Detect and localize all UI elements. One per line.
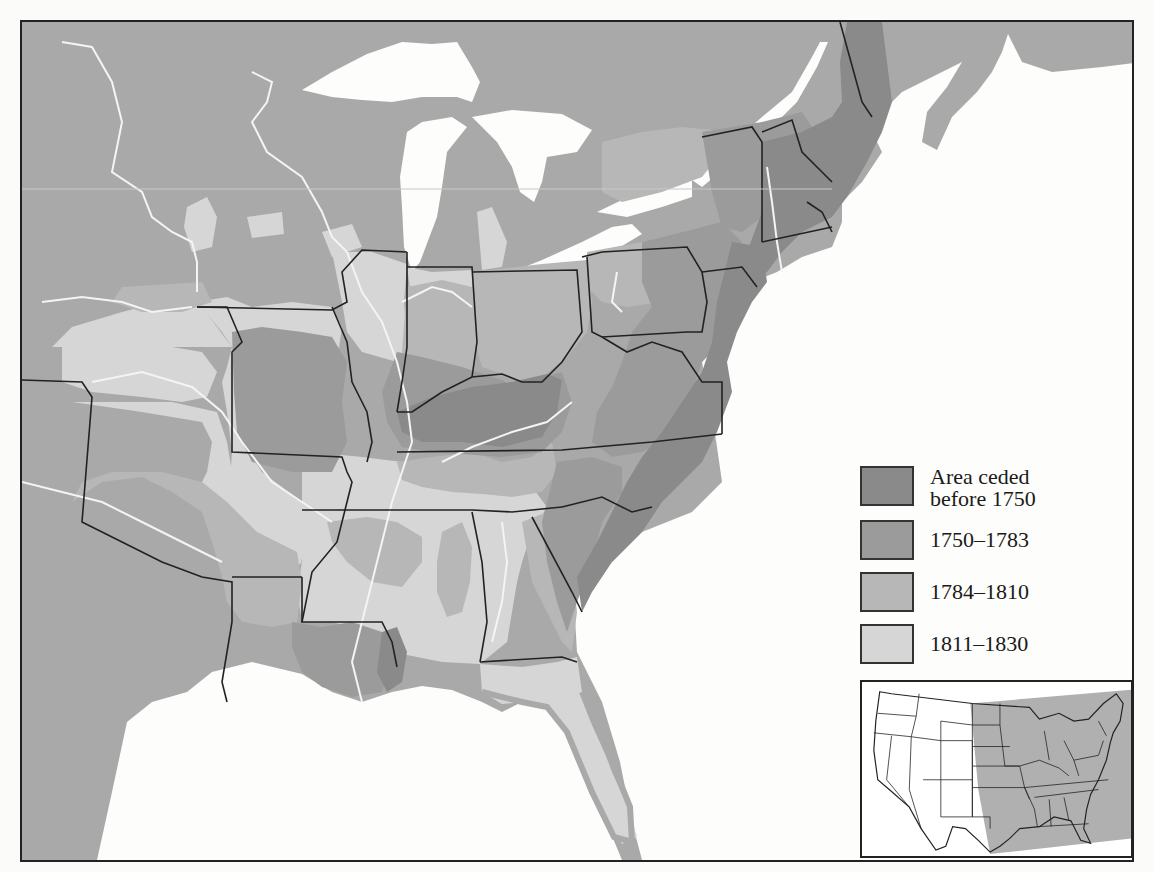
- inset-highlight: [970, 690, 1131, 854]
- legend-swatch: [860, 624, 914, 664]
- legend-swatch: [860, 572, 914, 612]
- inset-map-svg: [862, 682, 1131, 856]
- legend-item-1811-1830: 1811–1830: [860, 624, 1028, 664]
- legend-item-1784-1810: 1784–1810: [860, 572, 1029, 612]
- legend-label: 1750–1783: [930, 529, 1029, 551]
- legend-label: 1811–1830: [930, 633, 1028, 655]
- legend-label: 1784–1810: [930, 581, 1029, 603]
- legend-label: Area ceded before 1750: [930, 466, 1036, 510]
- legend-item-before-1750: Area ceded before 1750: [860, 466, 1036, 510]
- legend-swatch: [860, 520, 914, 560]
- inset-locator-map: [860, 680, 1133, 858]
- legend-swatch: [860, 466, 914, 506]
- legend-item-1750-1783: 1750–1783: [860, 520, 1029, 560]
